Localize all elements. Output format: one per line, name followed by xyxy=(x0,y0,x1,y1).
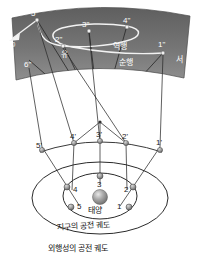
sky-position-label-5: 5" xyxy=(31,9,38,18)
earth-position-label-3: 3 xyxy=(97,180,102,189)
outer-planet-arc: 1' 2' 3' 4' 5' xyxy=(36,130,163,153)
earth-position-label-4: 4 xyxy=(73,185,78,194)
sky-position-label-6: 6" xyxy=(24,60,31,69)
outer-planet-label-1: 1' xyxy=(156,138,162,147)
motion-label-retrograde: 역행 xyxy=(113,41,127,51)
outer-planet-label-5: 5' xyxy=(36,141,42,150)
earth-position-label-2: 2 xyxy=(124,185,129,194)
sky-position-label-1: 1" xyxy=(158,40,165,49)
outer-planet-nodes xyxy=(39,138,162,152)
outer-planet-label-4: 4' xyxy=(70,132,76,141)
sun-sphere xyxy=(93,190,108,205)
sightline-convergence-point xyxy=(98,120,101,123)
outer-orbit-caption: 외행성의 공전 궤도 xyxy=(48,243,108,253)
earth-orbit-caption: 지구의 공전 궤도 xyxy=(57,219,111,232)
direction-label-east: 동 xyxy=(7,41,16,48)
outer-planet-label-2: 2' xyxy=(122,132,128,141)
sky-position-label-2: 2" xyxy=(55,35,62,44)
earth-position-label-1: 1 xyxy=(117,202,122,211)
sky-position-label-3: 3" xyxy=(82,20,89,29)
outer-planet-label-3: 3' xyxy=(96,130,102,139)
direction-label-west: 서 xyxy=(176,55,183,64)
sun-label: 태양 xyxy=(88,206,103,215)
motion-label-prograde: 순행 xyxy=(119,57,133,67)
sky-position-label-4: 4" xyxy=(123,16,130,25)
earth-position-label-5: 5 xyxy=(77,202,82,211)
earth-orbit-ellipse: 태양 1 2 3 4 5 xyxy=(63,173,137,219)
diagram-canvas: 1" 2" 3" 4" 5" 6" 동 서 역행 순행 유 xyxy=(0,0,199,269)
